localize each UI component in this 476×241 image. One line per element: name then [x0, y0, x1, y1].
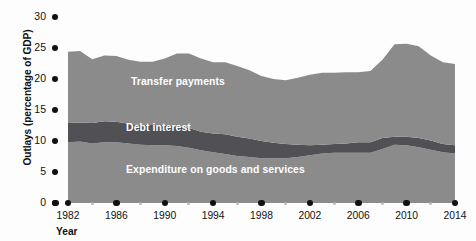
x-tick-label: 1998 [242, 210, 282, 221]
x-tick-dot-minor [91, 202, 94, 205]
x-tick-dot-major [403, 200, 410, 207]
series-label: Expenditure on goods and services [126, 164, 305, 175]
x-tick-dot-major [258, 200, 265, 207]
x-tick-dot-minor [236, 202, 239, 205]
x-tick-label: 2002 [290, 210, 330, 221]
x-tick-dot-minor [429, 202, 432, 205]
series-label: Transfer payments [131, 76, 225, 87]
x-tick-label: 1990 [145, 210, 185, 221]
x-axis-title: Year [56, 226, 78, 237]
x-tick-label: 2006 [338, 210, 378, 221]
x-tick-dot-minor [284, 202, 287, 205]
x-tick-label: 1982 [48, 210, 88, 221]
x-tick-dot-major [355, 200, 362, 207]
x-tick-label: 2010 [387, 210, 427, 221]
x-tick-dot-minor [381, 202, 384, 205]
x-tick-label: 1994 [193, 210, 233, 221]
chart-figure: Outlays (percentage of GDP) 051015202530… [0, 0, 476, 241]
x-tick-label: 1986 [96, 210, 136, 221]
x-tick-dot-minor [333, 202, 336, 205]
axis-origin-dot [52, 200, 59, 207]
x-tick-label: 2014 [435, 210, 475, 221]
series-label: Debt interest [126, 122, 191, 133]
x-tick-dot-major [113, 200, 120, 207]
x-tick-dot-minor [139, 202, 142, 205]
